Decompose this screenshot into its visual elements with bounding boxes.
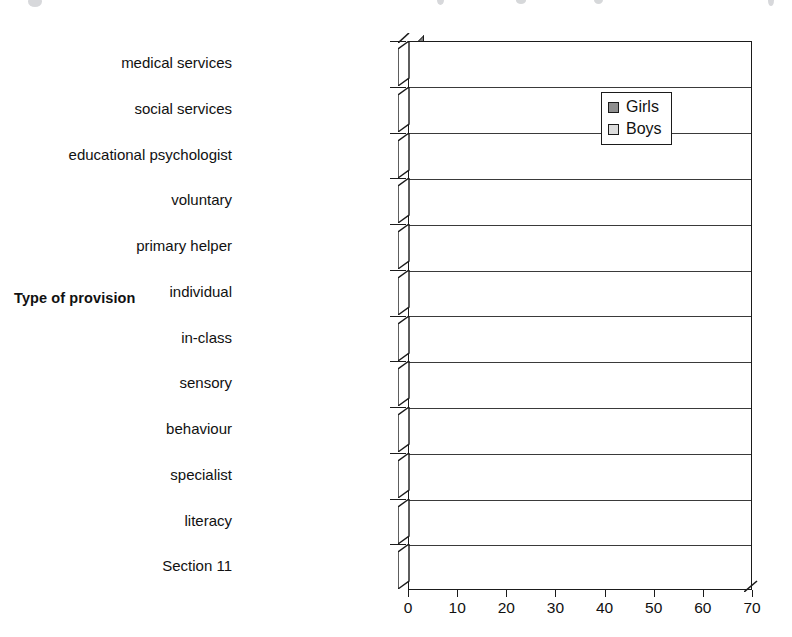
x-axis: 010203040506070 xyxy=(408,590,752,630)
gridline xyxy=(409,87,751,88)
x-axis-tick xyxy=(408,590,409,597)
x-axis-tick-label: 30 xyxy=(533,599,577,617)
girls-swatch xyxy=(608,102,619,113)
x-axis-tick-label: 40 xyxy=(583,599,627,617)
x-axis-tick-label: 10 xyxy=(435,599,479,617)
y-axis-category-label: specialist xyxy=(0,466,232,483)
legend-item-girls: Girls xyxy=(608,96,662,118)
axis-depth-riser xyxy=(398,453,410,498)
y-axis-category-label: primary helper xyxy=(0,237,232,254)
bar-chart-figure: Type of provision medical servicessocial… xyxy=(0,0,792,637)
y-axis-category-label: in-class xyxy=(0,329,232,346)
y-axis-category-label: medical services xyxy=(0,54,232,71)
x-axis-tick xyxy=(752,590,753,597)
y-axis-category-label: literacy xyxy=(0,512,232,529)
x-axis-tick-label: 0 xyxy=(386,599,430,617)
axis-depth-riser xyxy=(398,361,410,406)
axis-depth-riser xyxy=(398,178,410,223)
x-axis-tick xyxy=(506,590,507,597)
y-axis-category-label: voluntary xyxy=(0,191,232,208)
x-axis-tick-label: 70 xyxy=(730,599,774,617)
x-axis-tick xyxy=(457,590,458,597)
gridline xyxy=(409,225,751,226)
x-axis-tick-label: 50 xyxy=(632,599,676,617)
axis-depth-riser xyxy=(398,499,410,544)
y-axis-category-label: Section 11 xyxy=(0,557,232,574)
gridline xyxy=(409,271,751,272)
axis-depth-riser xyxy=(398,87,410,132)
boys-swatch xyxy=(608,124,619,135)
x-axis-tick xyxy=(703,590,704,597)
scan-artifact xyxy=(0,0,792,9)
gridline xyxy=(409,316,751,317)
axis-depth-riser xyxy=(398,544,410,589)
gridline xyxy=(409,179,751,180)
x-axis-tick xyxy=(605,590,606,597)
plot-area xyxy=(408,41,752,590)
axis-depth-riser xyxy=(398,224,410,269)
gridline xyxy=(409,408,751,409)
axis-depth-riser xyxy=(398,316,410,361)
gridline xyxy=(409,133,751,134)
axis-depth-riser xyxy=(398,407,410,452)
legend-label-girls: Girls xyxy=(626,99,659,115)
axis-depth-riser xyxy=(398,41,410,86)
y-axis-category-label: individual xyxy=(0,283,232,300)
legend: Girls Boys xyxy=(601,92,672,145)
axis-depth-riser xyxy=(398,133,410,178)
legend-item-boys: Boys xyxy=(608,118,662,140)
gridline xyxy=(409,500,751,501)
gridline xyxy=(409,454,751,455)
y-axis-category-label: sensory xyxy=(0,374,232,391)
gridline xyxy=(409,545,751,546)
x-axis-tick-label: 20 xyxy=(484,599,528,617)
gridline xyxy=(409,362,751,363)
legend-label-boys: Boys xyxy=(626,121,662,137)
x-axis-tick xyxy=(555,590,556,597)
axis-depth-riser xyxy=(398,270,410,315)
y-axis-category-label: behaviour xyxy=(0,420,232,437)
y-axis-category-label: social services xyxy=(0,100,232,117)
x-axis-tick-label: 60 xyxy=(681,599,725,617)
x-axis-tick xyxy=(654,590,655,597)
y-axis-category-label: educational psychologist xyxy=(0,146,232,163)
